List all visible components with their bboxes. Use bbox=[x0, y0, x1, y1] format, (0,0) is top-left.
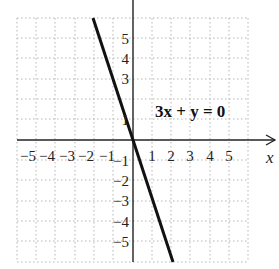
ytick-5: 5 bbox=[122, 31, 130, 47]
ytick-3: 3 bbox=[122, 71, 130, 87]
ytick-4: 4 bbox=[122, 51, 130, 67]
xtick--3: −3 bbox=[59, 148, 75, 164]
ytick--1: −1 bbox=[113, 153, 129, 169]
ytick--4: −4 bbox=[113, 214, 129, 230]
x-axis-label: x bbox=[265, 148, 274, 167]
axes bbox=[17, 0, 275, 262]
xtick-2: 2 bbox=[167, 148, 175, 164]
xtick--5: −5 bbox=[20, 148, 36, 164]
ytick--5: −5 bbox=[113, 234, 129, 250]
xtick--2: −2 bbox=[78, 148, 94, 164]
xtick-3: 3 bbox=[186, 148, 194, 164]
xtick-5: 5 bbox=[225, 148, 233, 164]
equation-label: 3x + y = 0 bbox=[155, 102, 225, 121]
ytick--3: −3 bbox=[113, 193, 129, 209]
xtick-4: 4 bbox=[206, 148, 214, 164]
coordinate-graph: −5 −4 −3 −2 −1 1 2 3 4 5 5 4 3 1 −1 −2 −… bbox=[0, 0, 279, 269]
ytick--2: −2 bbox=[113, 173, 129, 189]
xtick-1: 1 bbox=[148, 148, 156, 164]
xtick--4: −4 bbox=[39, 148, 55, 164]
ytick-1: 1 bbox=[122, 112, 130, 128]
